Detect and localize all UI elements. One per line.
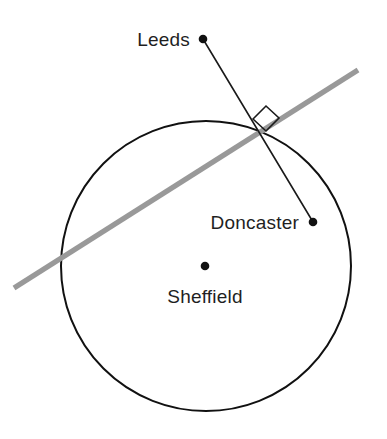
point-sheffield — [201, 262, 210, 271]
label-doncaster: Doncaster — [211, 212, 300, 233]
leeds-doncaster-line — [203, 39, 313, 222]
diagram-canvas: Leeds Doncaster Sheffield — [0, 0, 387, 439]
label-leeds: Leeds — [137, 29, 190, 50]
point-doncaster — [309, 218, 318, 227]
geometry-diagram: Leeds Doncaster Sheffield — [0, 0, 387, 439]
point-leeds — [199, 35, 208, 44]
label-sheffield: Sheffield — [167, 286, 242, 307]
tangent-line — [14, 70, 358, 288]
